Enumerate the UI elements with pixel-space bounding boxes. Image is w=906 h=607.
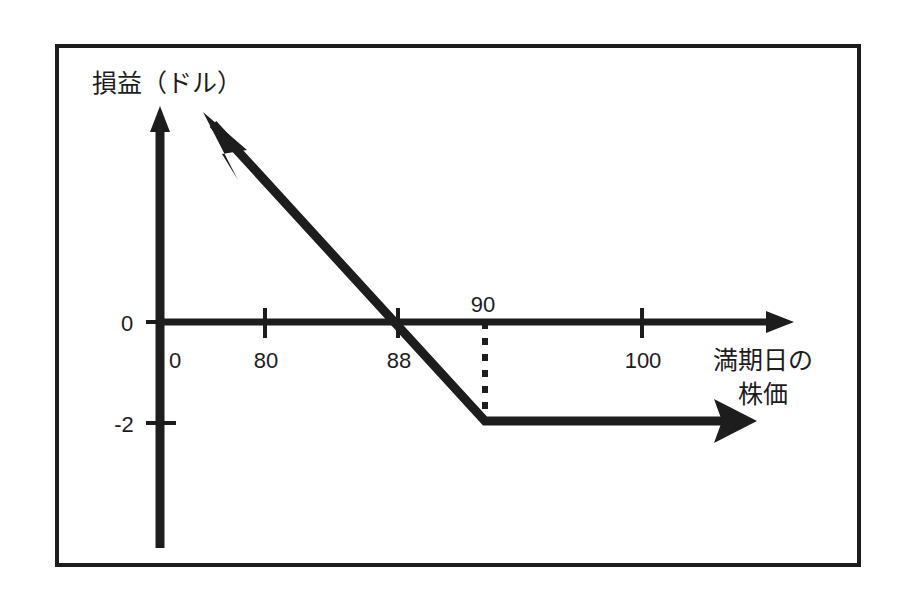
payoff-line-upper-arrowhead-icon — [203, 112, 247, 180]
payoff-diagram-figure: 損益（ドル） 満期日の 株価 0 -2 0 80 88 100 90 — [0, 0, 906, 607]
x-tick-label-0: 0 — [169, 348, 181, 373]
payoff-line — [213, 124, 724, 421]
y-tick-label-minus-2: -2 — [114, 412, 134, 437]
y-axis-arrowhead-icon — [150, 106, 170, 132]
x-tick-label-100: 100 — [625, 348, 662, 373]
x-axis-title-line-2: 株価 — [738, 380, 788, 408]
x-axis-title-line-1: 満期日の — [713, 346, 813, 374]
annotation-label-90: 90 — [471, 292, 495, 317]
x-tick-label-80: 80 — [254, 348, 278, 373]
figure-border — [57, 46, 859, 565]
x-axis-arrowhead-icon — [766, 311, 794, 333]
y-axis-title: 損益（ドル） — [92, 69, 242, 97]
payoff-chart-svg: 損益（ドル） 満期日の 株価 0 -2 0 80 88 100 90 — [0, 0, 906, 607]
y-tick-label-0: 0 — [121, 311, 133, 336]
x-tick-label-88: 88 — [387, 348, 411, 373]
